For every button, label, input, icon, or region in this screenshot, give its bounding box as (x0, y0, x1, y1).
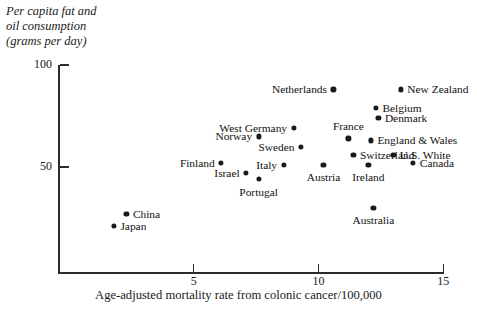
x-tick-label-10: 10 (304, 274, 334, 289)
data-point (281, 162, 286, 167)
point-label: Israel (214, 167, 239, 179)
data-point (366, 162, 371, 167)
data-point (321, 162, 326, 167)
data-point (351, 152, 356, 157)
cropped-title (0, 0, 477, 1)
y-axis-line (58, 65, 60, 274)
data-point (371, 205, 376, 210)
data-point (256, 134, 261, 139)
point-label: Portugal (239, 186, 278, 198)
point-label: Italy (256, 159, 277, 171)
data-point (346, 136, 351, 141)
point-label: Austria (307, 171, 341, 183)
y-tick-label-50: 50 (18, 159, 52, 174)
data-point (368, 138, 373, 143)
data-point (124, 211, 129, 216)
data-point (256, 177, 261, 182)
data-point (411, 160, 416, 165)
data-point (291, 126, 296, 131)
data-point (244, 171, 249, 176)
point-label: Japan (120, 220, 146, 232)
data-point (298, 144, 303, 149)
data-point (111, 224, 116, 229)
point-label: China (133, 208, 160, 220)
y-axis-label-line-1: Per capita fat and (6, 4, 156, 19)
scatter-plot-figure: Per capita fat and oil consumption (gram… (0, 0, 477, 318)
y-axis-label: Per capita fat and oil consumption (gram… (6, 4, 156, 49)
point-label: England & Wales (377, 134, 457, 146)
y-tick-50 (60, 166, 69, 167)
data-point (331, 87, 336, 92)
point-label: France (333, 120, 364, 132)
point-label: Australia (352, 214, 394, 226)
point-label: Canada (420, 157, 454, 169)
point-label: New Zealand (407, 83, 468, 95)
x-tick-5 (193, 264, 194, 273)
y-tick-label-100: 100 (18, 57, 52, 72)
point-label: Finland (180, 157, 215, 169)
data-point (219, 160, 224, 165)
x-tick-15 (443, 264, 444, 273)
point-label: Sweden (258, 141, 294, 153)
x-tick-label-15: 15 (428, 274, 458, 289)
y-axis-label-line-3: (grams per day) (6, 34, 156, 49)
y-tick-100 (60, 64, 69, 65)
y-axis-label-line-2: oil consumption (6, 19, 156, 34)
data-point (376, 115, 381, 120)
point-label: Denmark (385, 112, 427, 124)
data-point (373, 105, 378, 110)
point-label: Netherlands (272, 83, 327, 95)
x-tick-10 (318, 264, 319, 273)
x-axis-label: Age-adjusted mortality rate from colonic… (0, 288, 477, 303)
point-label: Norway (215, 130, 252, 142)
x-tick-label-5: 5 (179, 274, 209, 289)
x-axis-line (58, 272, 444, 274)
point-label: Ireland (352, 171, 384, 183)
data-point (398, 87, 403, 92)
